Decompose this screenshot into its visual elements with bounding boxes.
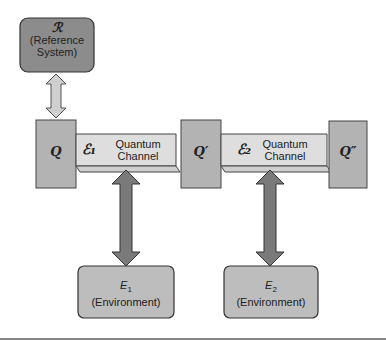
channel-2-symbol: ℰ₂ [237, 141, 251, 157]
channel-1-line1: Quantum [108, 138, 168, 150]
channel-2-line1: Quantum [255, 138, 315, 150]
reference-label: ℛ (Reference System) [20, 22, 94, 58]
env-1-text: (Environment) [78, 296, 174, 308]
q-prime-label: Q′ [181, 146, 221, 158]
environment-2-label: E2 (Environment) [224, 279, 318, 308]
channel-2-bottom [221, 166, 331, 172]
q-label: Q [36, 146, 76, 158]
reference-line2: System) [20, 46, 94, 58]
channel-1-label: Quantum Channel [108, 138, 168, 162]
env-2-text: (Environment) [224, 296, 318, 308]
channel-1-symbol: ℰ₁ [82, 141, 96, 157]
double-arrow-icon [112, 170, 140, 266]
channel-1-bottom [76, 166, 180, 172]
channel-2-label: Quantum Channel [255, 138, 315, 162]
channel-1-line2: Channel [108, 150, 168, 162]
reference-line1: (Reference [20, 34, 94, 46]
q-double-prime-label: Q″ [329, 146, 367, 158]
channel-2-line2: Channel [255, 150, 315, 162]
environment-1-label: E1 (Environment) [78, 279, 174, 308]
env-1-sub: 1 [127, 285, 131, 294]
reference-symbol: ℛ [20, 22, 94, 34]
env-2-sub: 2 [272, 285, 276, 294]
double-arrow-icon [46, 74, 66, 118]
double-arrow-icon [256, 170, 284, 266]
